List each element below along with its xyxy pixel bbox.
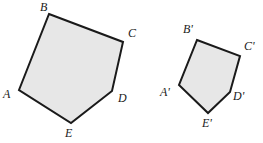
label-e: E — [65, 127, 72, 139]
label-a: A — [3, 88, 10, 100]
similar-pentagons-figure: B C D E A B' C' D' E' A' — [0, 0, 263, 143]
pentagon-abcde — [19, 14, 123, 123]
label-d: D — [118, 92, 127, 104]
label-b: B — [40, 1, 47, 13]
pentagon-abcde-prime — [179, 40, 240, 113]
label-e-prime: E' — [202, 117, 212, 129]
label-b-prime: B' — [183, 23, 193, 35]
label-c: C — [128, 27, 136, 39]
label-a-prime: A' — [160, 86, 170, 98]
label-c-prime: C' — [244, 40, 255, 52]
label-d-prime: D' — [233, 90, 244, 102]
figure-canvas — [0, 0, 263, 143]
